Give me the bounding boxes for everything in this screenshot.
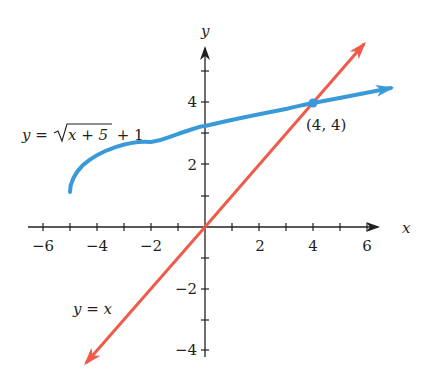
curve-label-suffix: + 1 bbox=[112, 126, 144, 144]
y-tick-label: −4 bbox=[175, 341, 197, 359]
graph-canvas: −6 −4 −2 2 4 6 4 2 −2 −4 x y (4, 4) y = … bbox=[0, 0, 426, 383]
x-tick-label: −6 bbox=[32, 237, 54, 255]
x-tick-labels: −6 −4 −2 2 4 6 bbox=[32, 237, 372, 255]
intersection-point-label: (4, 4) bbox=[306, 116, 346, 134]
curve-equation-label: y = x + 5 + 1 bbox=[21, 124, 144, 144]
y-tick-label: 2 bbox=[187, 156, 197, 174]
x-axis-label: x bbox=[402, 219, 411, 237]
svg-text:y =: y = bbox=[21, 126, 48, 144]
x-tick-label: 6 bbox=[362, 237, 372, 255]
line-y-equals-x-upper bbox=[205, 44, 364, 227]
intersection-point-marker bbox=[309, 99, 318, 108]
y-axis bbox=[201, 48, 209, 357]
curve-label-radicand: x + 5 bbox=[68, 126, 108, 144]
y-tick-label: −2 bbox=[175, 280, 197, 298]
x-tick-label: 2 bbox=[255, 237, 265, 255]
line-equation-label: y = x bbox=[72, 300, 113, 318]
y-tick-label: 4 bbox=[187, 93, 197, 111]
x-tick-label: −4 bbox=[86, 237, 108, 255]
curve-label-eq: = bbox=[30, 126, 47, 144]
y-axis-label: y bbox=[200, 22, 210, 40]
x-tick-label: 4 bbox=[308, 237, 318, 255]
x-tick-label: −2 bbox=[140, 237, 162, 255]
